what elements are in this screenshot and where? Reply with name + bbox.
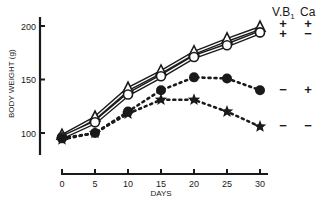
y-axis: 100150200 <box>21 17 45 155</box>
x-tick-label: 0 <box>59 179 64 189</box>
x-tick-label: 20 <box>189 179 199 189</box>
open-circle-marker-icon <box>91 118 100 127</box>
x-tick-label: 30 <box>255 179 265 189</box>
x-tick-label: 25 <box>222 179 232 189</box>
legend-vb1-sign: + <box>279 26 287 41</box>
star-marker-icon <box>155 93 167 105</box>
star-marker-icon <box>188 93 200 105</box>
open-circle-marker-icon <box>190 53 199 62</box>
star-marker-icon <box>254 120 266 132</box>
x-tick-label: 10 <box>123 179 133 189</box>
y-tick-label: 200 <box>21 22 36 32</box>
x-axis-title: DAYS <box>150 189 171 198</box>
series-markers-2 <box>57 72 265 143</box>
body-weight-chart: 100150200 051015202530 V.B1Ca+++−−+−− BO… <box>0 0 322 207</box>
open-circle-marker-icon <box>223 41 232 50</box>
open-circle-marker-icon <box>124 90 133 99</box>
open-circle-marker-icon <box>157 72 166 81</box>
series-layer <box>56 21 266 145</box>
legend-vb1-sign: − <box>279 118 287 133</box>
star-marker-icon <box>221 105 233 117</box>
y-tick-label: 150 <box>21 75 36 85</box>
legend-ca-sign: − <box>304 26 312 41</box>
x-tick-label: 15 <box>156 179 166 189</box>
legend-ca-sign: − <box>304 118 312 133</box>
series-markers-3 <box>56 93 266 144</box>
open-circle-marker-icon <box>256 28 265 37</box>
filled-circle-marker-icon <box>222 73 232 83</box>
x-axis: 051015202530 <box>59 169 268 189</box>
y-axis-title: BODY WEIGHT (g) <box>7 49 16 118</box>
filled-circle-marker-icon <box>255 85 265 95</box>
legend-ca-sign: + <box>304 82 312 97</box>
y-tick-label: 100 <box>21 129 36 139</box>
filled-circle-marker-icon <box>189 72 199 82</box>
x-tick-label: 5 <box>92 179 97 189</box>
legend: V.B1Ca+++−−+−− <box>272 5 316 133</box>
legend-vb1-sign: − <box>279 82 287 97</box>
